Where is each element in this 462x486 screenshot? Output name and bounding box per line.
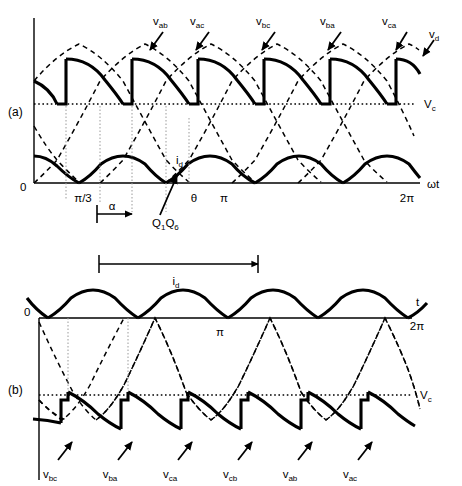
panel-a-current-humps (34, 156, 420, 183)
panel-b-dashed-line-voltages (39, 318, 420, 420)
panel-b: (b) 0 t Vc id (8, 255, 432, 483)
panel-a-q1q6-label: Q1Q6 (152, 217, 179, 232)
panel-b-label-vba: vba (103, 468, 118, 483)
panel-b-label-vca: vca (163, 468, 178, 483)
panel-a-tick-pi: π (220, 192, 228, 204)
panel-b-output-voltage-vd (33, 392, 415, 429)
panel-a-x-axis-label: ωt (427, 178, 440, 190)
panel-a: (a) 0 ωt Vc (8, 15, 440, 232)
panel-b-label-vbc: vbc (43, 468, 57, 483)
panel-a-alpha-label: α (109, 200, 116, 212)
panel-a-output-voltage-vd (34, 59, 420, 104)
panel-a-vc-label: Vc (424, 98, 436, 113)
panel-a-label-vbc: vbc (256, 15, 270, 30)
panel-b-x-axis-label: t (416, 296, 420, 308)
panel-a-origin-label: 0 (20, 181, 26, 193)
panel-b-tick-pi: π (216, 326, 224, 338)
panel-a-id-label: id (176, 154, 183, 169)
panel-a-label-vac: vac (190, 15, 204, 30)
panel-a-tick-pi-over-3: π/3 (74, 192, 92, 204)
panel-a-tick-2pi: 2π (400, 192, 414, 204)
panel-b-origin-label: 0 (24, 306, 30, 318)
panel-a-label-vba: vba (320, 15, 335, 30)
panel-a-tag: (a) (8, 105, 23, 119)
panel-b-id-label: id (172, 275, 179, 290)
panel-b-current-humps (27, 290, 427, 318)
panel-b-vc-label: Vc (420, 389, 432, 404)
panel-b-label-vab: vab (283, 468, 298, 483)
panel-b-label-vac: vac (343, 468, 357, 483)
waveform-figure: (a) 0 ωt Vc (0, 0, 462, 486)
panel-b-tag: (b) (8, 383, 23, 397)
panel-a-tick-theta: θ (191, 192, 197, 204)
panel-a-label-vab: vab (153, 15, 168, 30)
panel-b-id-dimension: id (99, 255, 258, 290)
panel-a-label-vd: vd (429, 28, 439, 43)
panel-b-tick-2pi: 2π (410, 320, 424, 332)
figure-canvas: (a) 0 ωt Vc (0, 0, 462, 486)
panel-b-leader-arrows (58, 442, 372, 460)
panel-b-label-vcb: vcb (223, 468, 238, 483)
panel-a-label-vca: vca (382, 15, 397, 30)
panel-a-alpha-dimension: α (97, 200, 132, 223)
